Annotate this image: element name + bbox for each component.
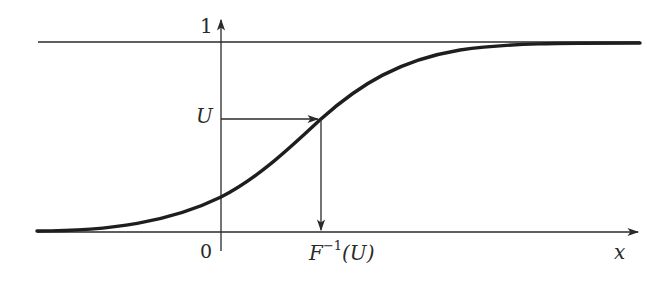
inverse-cdf-sup: −1	[323, 238, 342, 253]
inverse-cdf-arg: (U)	[342, 241, 374, 265]
y-label-u: U	[196, 104, 213, 128]
inverse-cdf-label: F−1(U)	[309, 240, 375, 265]
cdf-inverse-diagram: 1 U 0 F−1(U) x	[0, 0, 671, 284]
cdf-curve	[37, 43, 640, 231]
y-label-one: 1	[200, 14, 213, 38]
origin-label: 0	[200, 240, 212, 262]
inverse-cdf-base: F	[309, 241, 323, 265]
x-axis-label: x	[614, 240, 625, 264]
